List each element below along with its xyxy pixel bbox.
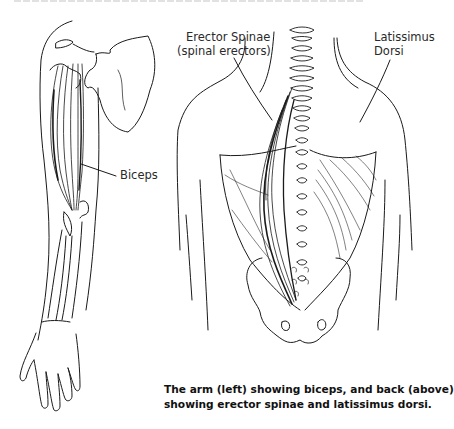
back-drawing [177,27,412,343]
latissimus-dorsi-label-line1: Latissimus [374,31,435,44]
erector-spinae-label-line2: (spinal erectors) [177,45,271,58]
figure-caption: The arm (left) showing biceps, and back … [164,382,454,412]
erector-spinae-label-line1: Erector Spinae [186,31,270,44]
erector-leader [234,58,272,120]
arm-drawing [20,21,155,411]
biceps-label: Biceps [120,169,158,182]
latissimus-leader [360,60,390,122]
caption-line2: showing erector spinae and latissimus do… [164,397,454,412]
caption-line1: The arm (left) showing biceps, and back … [164,382,454,397]
latissimus-dorsi-label-line2: Dorsi [374,45,404,58]
